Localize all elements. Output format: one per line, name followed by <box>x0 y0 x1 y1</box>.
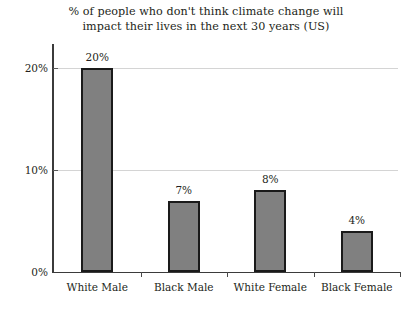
bar-value-label-black-male: 7% <box>154 185 214 196</box>
bar-white-female <box>254 190 286 272</box>
x-axis-tick-1 <box>141 272 142 277</box>
y-axis-tick-20 <box>53 68 58 69</box>
y-axis-label-10: 10% <box>0 165 48 176</box>
bar-chart: % of people who don't think climate chan… <box>0 0 412 313</box>
x-axis-tick-2 <box>227 272 228 277</box>
bar-value-label-black-female: 4% <box>327 215 387 226</box>
x-axis-tick-4 <box>400 272 401 277</box>
plot-area <box>53 40 400 272</box>
x-axis-tick-3 <box>314 272 315 277</box>
x-axis-label-black-male: Black Male <box>134 281 234 293</box>
bar-black-male <box>168 201 200 272</box>
x-axis-label-black-female: Black Female <box>307 281 407 293</box>
x-axis-label-white-female: White Female <box>220 281 320 293</box>
bar-value-label-white-female: 8% <box>240 174 300 185</box>
y-axis-tick-10 <box>53 170 58 171</box>
bar-white-male <box>81 68 113 272</box>
y-axis-label-0: 0% <box>0 267 48 278</box>
y-axis-label-20: 20% <box>0 63 48 74</box>
chart-title: % of people who don't think climate chan… <box>0 4 412 34</box>
x-axis-label-white-male: White Male <box>47 281 147 293</box>
chart-title-line-2: impact their lives in the next 30 years … <box>0 19 412 34</box>
bar-black-female <box>341 231 373 272</box>
bar-value-label-white-male: 20% <box>67 52 127 63</box>
chart-title-line-1: % of people who don't think climate chan… <box>0 4 412 19</box>
